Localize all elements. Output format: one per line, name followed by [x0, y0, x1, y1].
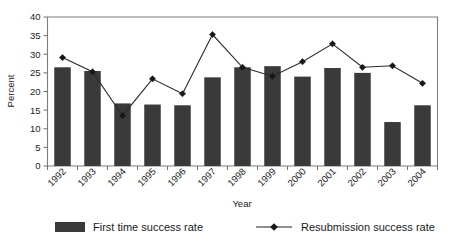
legend: First time success rate Resubmission suc… — [55, 221, 435, 233]
bar-1997 — [204, 77, 221, 166]
y-tick-label: 25 — [30, 67, 41, 78]
x-label-1998: 1998 — [225, 166, 248, 189]
y-tick-label: 35 — [30, 30, 41, 41]
x-label-1994: 1994 — [105, 166, 128, 189]
chart-svg: 0510152025303540 19921993199419951996199… — [0, 0, 453, 245]
legend-diamond-icon — [270, 223, 278, 231]
x-label-1993: 1993 — [75, 166, 98, 189]
bar-2003 — [384, 122, 401, 166]
x-label-2000: 2000 — [285, 166, 308, 189]
legend-swatch-bar — [55, 222, 85, 232]
bar-2004 — [414, 105, 431, 166]
bar-1995 — [144, 105, 161, 166]
y-tick-label: 5 — [35, 142, 40, 153]
x-label-1995: 1995 — [135, 166, 158, 189]
y-axis-title: Percent — [5, 74, 16, 107]
y-tick-label: 10 — [30, 123, 41, 134]
bar-series — [54, 66, 431, 166]
y-axis-ticks: 0510152025303540 — [30, 11, 48, 171]
bar-2000 — [294, 77, 311, 166]
bar-1998 — [234, 67, 251, 166]
x-label-1996: 1996 — [165, 166, 188, 189]
x-label-2002: 2002 — [345, 166, 368, 189]
chart-container: 0510152025303540 19921993199419951996199… — [0, 0, 453, 245]
legend-label-first-time: First time success rate — [93, 221, 203, 233]
bar-1992 — [54, 67, 71, 166]
line-point-2000 — [299, 59, 305, 65]
y-tick-label: 20 — [30, 86, 41, 97]
x-label-2001: 2001 — [315, 166, 338, 189]
bar-1993 — [84, 71, 101, 166]
y-tick-label: 15 — [30, 105, 41, 116]
y-tick-label: 30 — [30, 49, 41, 60]
bar-1999 — [264, 66, 281, 166]
line-point-2003 — [389, 63, 395, 69]
line-point-2004 — [419, 80, 425, 86]
bar-2001 — [324, 68, 341, 166]
line-point-1996 — [179, 91, 185, 97]
y-tick-label: 0 — [35, 160, 40, 171]
x-label-1997: 1997 — [195, 166, 218, 189]
x-axis-title: Year — [232, 198, 251, 209]
bar-1996 — [174, 105, 191, 166]
bar-2002 — [354, 73, 371, 166]
legend-label-resubmission: Resubmission success rate — [301, 221, 435, 233]
x-label-2003: 2003 — [375, 166, 398, 189]
x-axis-category-labels: 1992199319941995199619971998199920002001… — [45, 166, 428, 189]
line-point-1992 — [59, 55, 65, 61]
y-tick-label: 40 — [30, 11, 41, 22]
x-label-1999: 1999 — [255, 166, 278, 189]
x-label-1992: 1992 — [45, 166, 68, 189]
x-label-2004: 2004 — [405, 166, 428, 189]
